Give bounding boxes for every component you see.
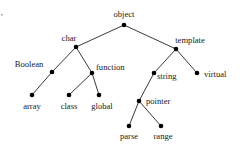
node-class: class xyxy=(61,93,78,111)
edge-template-virtual xyxy=(176,49,197,73)
node-dot-icon xyxy=(137,99,142,104)
node-label: pointer xyxy=(146,96,170,106)
node-label: string xyxy=(157,71,177,81)
node-label: object xyxy=(114,9,136,19)
node-char: char xyxy=(62,33,79,49)
node-dot-icon xyxy=(174,47,179,52)
node-global: global xyxy=(91,93,113,111)
edge-function-global xyxy=(92,73,99,95)
node-label: virtual xyxy=(204,69,227,79)
node-parse: parse xyxy=(120,124,138,141)
node-dot-icon xyxy=(90,71,95,76)
node-label: template xyxy=(175,35,205,45)
node-label: range xyxy=(153,131,172,141)
edge-template-string xyxy=(154,49,176,73)
node-dot-icon xyxy=(97,93,102,98)
node-label: char xyxy=(62,33,77,43)
node-label: global xyxy=(91,101,113,111)
corner-artifact xyxy=(1,14,3,16)
node-label: parse xyxy=(120,131,138,141)
node-label: class xyxy=(61,101,78,111)
node-dot-icon xyxy=(74,45,79,50)
edge-Boolean-array xyxy=(32,72,52,95)
tree-nodes: objectchartemplateBooleanfunctionstringv… xyxy=(15,9,227,141)
node-dot-icon xyxy=(30,93,35,98)
edge-object-char xyxy=(76,25,124,47)
node-range: range xyxy=(153,124,172,141)
node-dot-icon xyxy=(50,70,55,75)
node-dot-icon xyxy=(122,23,127,28)
edge-char-Boolean xyxy=(52,47,76,72)
node-object: object xyxy=(114,9,136,27)
node-dot-icon xyxy=(67,93,72,98)
node-virtual: virtual xyxy=(195,69,227,79)
node-dot-icon xyxy=(152,71,157,76)
node-boolean: Boolean xyxy=(15,59,55,74)
node-label: function xyxy=(96,62,125,72)
node-template: template xyxy=(174,35,205,51)
edge-char-function xyxy=(76,47,92,73)
node-function: function xyxy=(90,62,126,75)
node-label: Boolean xyxy=(15,59,44,69)
node-array: array xyxy=(23,93,41,111)
tree-diagram: objectchartemplateBooleanfunctionstringv… xyxy=(0,0,242,151)
edge-pointer-parse xyxy=(129,101,139,126)
node-dot-icon xyxy=(195,71,200,76)
edge-object-template xyxy=(124,25,176,49)
node-dot-icon xyxy=(159,124,164,129)
edge-function-class xyxy=(69,73,92,95)
node-string: string xyxy=(152,71,178,81)
node-dot-icon xyxy=(127,124,132,129)
node-label: array xyxy=(23,101,41,111)
